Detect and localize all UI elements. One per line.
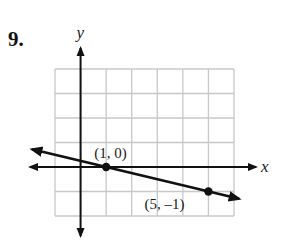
point-label: (1, 0) bbox=[94, 145, 127, 162]
y-axis-label: y bbox=[75, 23, 85, 42]
data-point bbox=[102, 163, 110, 171]
x-axis-label: x bbox=[260, 157, 269, 176]
point-label: (5, –1) bbox=[144, 196, 184, 213]
data-point bbox=[204, 187, 212, 195]
coordinate-plane: (1, 0)(5, –1) x y bbox=[0, 0, 282, 241]
